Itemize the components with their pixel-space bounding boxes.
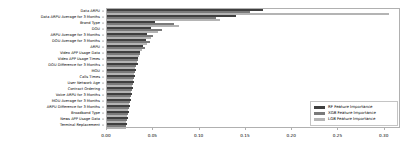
y-axis-tick-label: Video APP Usage Data xyxy=(60,51,100,55)
y-axis-tick-mark xyxy=(102,89,104,90)
legend-swatch-icon xyxy=(314,112,325,115)
x-axis-tick-mark xyxy=(337,128,338,130)
y-axis-tick-mark xyxy=(102,35,104,36)
y-axis-tick-label: DOU Difference for 3 Months xyxy=(48,63,100,67)
y-axis-tick-label: Terminal Replacement xyxy=(60,123,100,127)
x-axis-tick-label: 0.25 xyxy=(333,133,342,138)
legend-swatch-icon xyxy=(314,118,325,121)
y-axis-tick-mark xyxy=(102,17,104,18)
legend-item-label: LGB Feature Importance xyxy=(328,117,375,121)
x-axis-tick-mark xyxy=(152,128,153,130)
y-axis-tick-label: Contract Ordering xyxy=(68,87,100,91)
y-axis-tick-label: Data ARPU Average for 3 Months xyxy=(41,15,100,19)
y-axis-tick-label: DOU xyxy=(92,27,100,31)
y-axis-tick-mark xyxy=(102,95,104,96)
y-axis-tick-label: ARPU xyxy=(90,45,100,49)
legend-swatch-icon xyxy=(314,106,325,109)
legend-item: LGB Feature Importance xyxy=(314,117,394,123)
x-axis-tick-label: 0.10 xyxy=(194,133,203,138)
x-axis-tick-mark xyxy=(245,128,246,130)
x-axis-tick-mark xyxy=(106,128,107,130)
y-axis-tick-label: DOU Average for 3 Months xyxy=(52,39,100,43)
y-axis-tick-mark xyxy=(102,59,104,60)
x-axis-tick-mark xyxy=(199,128,200,130)
y-axis-tick-mark xyxy=(102,29,104,30)
legend-item-label: RF Feature Importance xyxy=(328,105,372,109)
x-axis-tick-label: 0.20 xyxy=(287,133,296,138)
y-axis-labels: Data ARPUData ARPU Average for 3 MonthsB… xyxy=(0,8,104,128)
x-axis-tick-label: 0.00 xyxy=(101,133,110,138)
y-axis-tick-label: Broadband Type xyxy=(71,111,100,115)
y-axis-tick-mark xyxy=(102,23,104,24)
y-axis-tick-label: ARPU Average for 3 Months xyxy=(51,33,100,37)
y-axis-tick-mark xyxy=(102,11,104,12)
x-axis-tick-label: 0.30 xyxy=(379,133,388,138)
x-axis-labels: 0.000.050.100.150.200.250.30 xyxy=(106,128,400,144)
y-axis-tick-label: Calls Times xyxy=(80,75,100,79)
y-axis-tick-label: Data ARPU xyxy=(81,9,100,13)
x-axis-tick-mark xyxy=(384,128,385,130)
y-axis-tick-label: MOU xyxy=(91,69,100,73)
legend-item-label: XGB Feature Importance xyxy=(328,111,376,115)
feature-importance-chart: Data ARPUData ARPU Average for 3 MonthsB… xyxy=(0,0,411,148)
y-axis-tick-mark xyxy=(102,71,104,72)
y-axis-tick-mark xyxy=(102,125,104,126)
y-axis-tick-mark xyxy=(102,65,104,66)
chart-legend: RF Feature ImportanceXGB Feature Importa… xyxy=(310,101,398,126)
y-axis-tick-mark xyxy=(102,41,104,42)
y-axis-tick-mark xyxy=(102,53,104,54)
y-axis-tick-label: Voice ARPU for 3 Months xyxy=(56,93,100,97)
y-axis-tick-label: User Network Age xyxy=(68,81,100,85)
y-axis-tick-mark xyxy=(102,119,104,120)
x-axis-tick-label: 0.05 xyxy=(148,133,157,138)
y-axis-tick-mark xyxy=(102,107,104,108)
x-axis-tick-label: 0.15 xyxy=(240,133,249,138)
x-axis-tick-mark xyxy=(291,128,292,130)
y-axis-tick-label: Brand Type xyxy=(80,21,100,25)
y-axis-tick-label: MOU Average for 3 Months xyxy=(52,99,100,103)
y-axis-tick-label: News APP Usage Data xyxy=(60,117,100,121)
y-axis-tick-mark xyxy=(102,47,104,48)
y-axis-tick-mark xyxy=(102,113,104,114)
y-axis-tick-mark xyxy=(102,77,104,78)
y-axis-tick-mark xyxy=(102,83,104,84)
y-axis-tick-label: ARPU Difference for 3 Months xyxy=(47,105,100,109)
y-axis-tick-label: Video APP Usage Times xyxy=(58,57,100,61)
y-axis-tick-mark xyxy=(102,101,104,102)
